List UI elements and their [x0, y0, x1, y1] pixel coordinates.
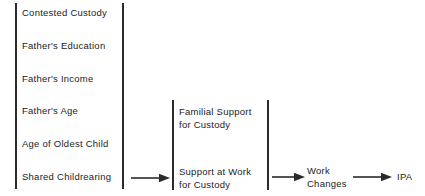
- predictor-label-fathers-age: Father's Age: [22, 105, 78, 117]
- predictor-label-age-of-oldest-child: Age of Oldest Child: [22, 138, 109, 150]
- support-label-support-at-work-for-custody: Support at Work for Custody: [179, 166, 251, 191]
- arrow-work-changes-to-ipa: [353, 172, 392, 182]
- work-changes-line-2: Changes: [307, 178, 347, 191]
- predictor-label-shared-childrearing: Shared Childrearing: [22, 171, 111, 183]
- support-bracket-left-rule: [172, 100, 174, 190]
- work-changes-line-1: Work: [307, 165, 347, 178]
- arrow-support-to-work-changes: [272, 172, 305, 182]
- support-at-work-line-2: for Custody: [179, 179, 251, 192]
- predictors-bracket-right-rule: [122, 3, 124, 189]
- path-diagram: Contested Custody Father's Education Fat…: [0, 0, 425, 196]
- support-bracket-right-rule: [267, 100, 269, 190]
- predictor-label-contested-custody: Contested Custody: [22, 7, 107, 19]
- familial-support-line-2: for Custody: [179, 119, 252, 132]
- familial-support-line-1: Familial Support: [179, 106, 252, 119]
- support-label-familial-support-for-custody: Familial Support for Custody: [179, 106, 252, 131]
- predictor-label-fathers-education: Father's Education: [22, 40, 105, 52]
- predictors-bracket-left-rule: [15, 3, 17, 189]
- arrow-predictors-to-support: [131, 173, 170, 183]
- support-at-work-line-1: Support at Work: [179, 166, 251, 179]
- node-label-ipa: IPA: [397, 171, 412, 183]
- predictor-label-fathers-income: Father's Income: [22, 73, 94, 85]
- node-label-work-changes: Work Changes: [307, 165, 347, 190]
